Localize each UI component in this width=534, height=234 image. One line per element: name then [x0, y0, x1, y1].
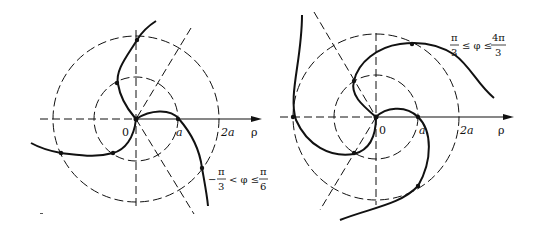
axis-label-rho: ρ [498, 124, 504, 137]
fraction-denominator: 3 [451, 47, 457, 58]
tick-label-a: a [176, 126, 183, 139]
diagonal-ray [136, 28, 191, 119]
arrow-icon [251, 116, 262, 122]
origin-label: 0 [122, 126, 129, 139]
intersection-dot [416, 184, 420, 188]
range-label-left: − π 3 < φ ≤ π 6 [208, 166, 268, 192]
intersection-dot [176, 117, 180, 121]
tick-label-2a: 2a [220, 126, 235, 139]
tick-label-2a: 2a [459, 124, 474, 137]
fraction-denominator: 3 [495, 47, 501, 58]
stray-mark [40, 213, 43, 214]
intersection-dot [352, 151, 356, 155]
inequality: < φ ≤ [229, 174, 259, 185]
intersection-dot [59, 151, 63, 155]
intersection-dot [374, 115, 379, 120]
intersection-dot [291, 115, 295, 119]
minus-sign: − [208, 174, 216, 185]
fraction-numerator: π [260, 166, 267, 177]
curve-branch-left [294, 15, 376, 155]
curve-branch-upper [353, 43, 494, 117]
curve-branch-right [136, 111, 208, 206]
diagonal-ray-lower [320, 117, 376, 210]
curve-branch-left [31, 119, 136, 156]
arrow-icon [503, 114, 514, 120]
inequality: ≤ φ ≤ [462, 40, 492, 51]
diagram-canvas: 0 a 2a ρ − π 3 < φ ≤ π 6 0 a 2a ρ [0, 0, 534, 234]
range-label-right: π 3 ≤ φ ≤ 4π 3 [450, 32, 506, 58]
tick-label-a: a [419, 124, 426, 137]
diagonal-ray-lower [136, 119, 194, 214]
fraction-denominator: 3 [218, 181, 224, 192]
fraction-numerator: π [218, 166, 225, 177]
left-figure [31, 21, 262, 214]
intersection-dot [352, 79, 356, 83]
intersection-dot [115, 81, 119, 85]
intersection-dot [410, 42, 414, 46]
intersection-dot [111, 151, 115, 155]
intersection-dot [200, 166, 204, 170]
intersection-dot [135, 38, 139, 42]
fraction-numerator: π [451, 32, 458, 43]
intersection-dot [134, 117, 139, 122]
fraction-numerator: 4π [492, 32, 505, 43]
diagonal-ray [314, 12, 376, 117]
intersection-dot [416, 115, 420, 119]
fraction-denominator: 6 [260, 181, 266, 192]
origin-label: 0 [379, 124, 386, 137]
axis-label-rho: ρ [251, 126, 257, 139]
